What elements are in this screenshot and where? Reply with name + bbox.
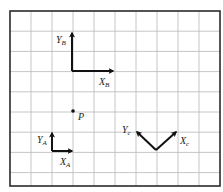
frame-c-x-axis-arrow: [156, 132, 176, 150]
frame-a-x-label: XA: [59, 156, 71, 169]
frame-a-y-label: YA: [37, 134, 48, 147]
frame-c-y-label: Yc: [122, 124, 132, 137]
frame-c: Yc Xc: [122, 124, 190, 150]
frame-c-x-label: Xc: [179, 135, 190, 148]
frame-a: YA XA: [37, 133, 72, 169]
grid: [10, 11, 220, 186]
frame-b-x-label: XB: [98, 76, 110, 89]
frame-c-y-axis-arrow: [137, 132, 156, 150]
point-p-label: P: [77, 111, 84, 122]
point-p-dot: [71, 109, 75, 113]
frame-b: YB XB: [56, 33, 113, 89]
frame-b-y-label: YB: [56, 34, 67, 47]
diagram-canvas: YB XB P YA XA Yc Xc: [0, 0, 223, 192]
